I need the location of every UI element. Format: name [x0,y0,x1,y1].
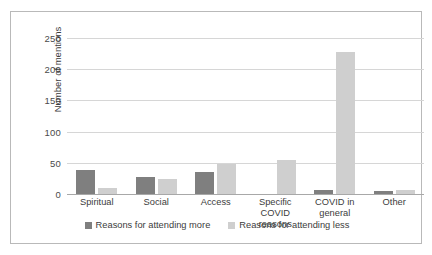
chart-legend: Reasons for attending more Reasons for a… [1,220,432,230]
bar-group-access [186,38,246,194]
y-axis-title: Number of mentions [52,0,63,140]
legend-swatch-icon [228,222,235,229]
bar-group-covid-in-general [305,38,365,194]
bar-covid-in-general-less[interactable] [336,52,355,194]
legend-item-more[interactable]: Reasons for attending more [85,220,211,230]
legend-item-less[interactable]: Reasons for attending less [228,220,349,230]
legend-swatch-icon [85,222,92,229]
legend-label-less: Reasons for attending less [239,220,349,230]
y-tick-label: 0 [56,189,61,200]
y-tick-label: 50 [50,157,61,168]
bar-social-more[interactable] [136,177,155,194]
bar-specific-covid-reasons-less[interactable] [277,160,296,194]
bar-group-spiritual [67,38,127,194]
legend-label-more: Reasons for attending more [96,220,211,230]
chart-frame: 250 200 150 100 50 0 Number of mentions [10,11,422,244]
bar-group-other [365,38,425,194]
figure-container: 250 200 150 100 50 0 Number of mentions [0,0,432,255]
bar-other-more[interactable] [374,191,393,194]
bar-other-less[interactable] [396,190,415,194]
bar-group-social [127,38,187,194]
bar-access-less[interactable] [217,164,236,194]
bar-spiritual-more[interactable] [76,170,95,194]
bar-groups [67,38,424,194]
bar-covid-in-general-more[interactable] [314,190,333,194]
bar-group-specific-covid-reasons [246,38,306,194]
bar-access-more[interactable] [195,172,214,194]
bar-social-less[interactable] [158,179,177,194]
axis-baseline [67,194,424,195]
bar-spiritual-less[interactable] [98,188,117,194]
